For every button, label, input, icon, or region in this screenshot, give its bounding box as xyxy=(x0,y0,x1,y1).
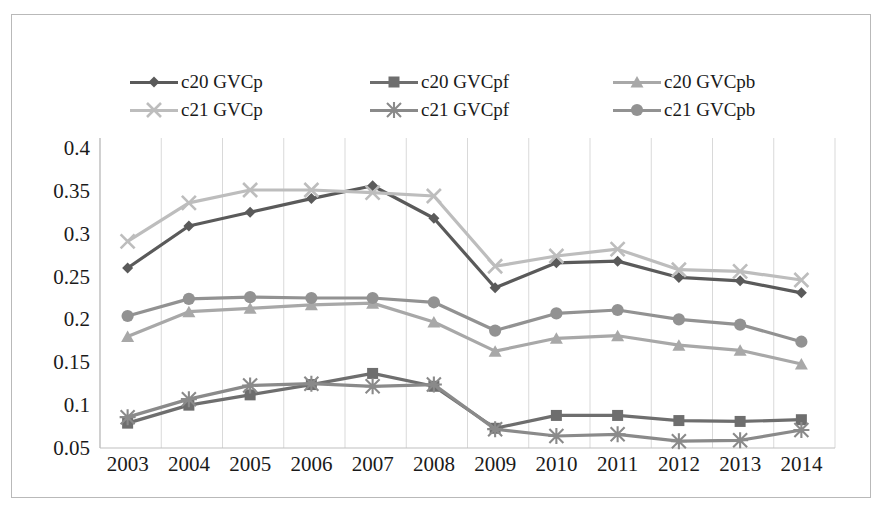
legend-item[interactable]: c20 GVCp xyxy=(130,68,370,96)
data-point-marker xyxy=(673,313,685,325)
diamond-marker-icon xyxy=(141,71,167,93)
data-point-marker xyxy=(631,104,643,116)
legend-item[interactable]: c21 GVCpb xyxy=(613,96,820,124)
data-point-marker xyxy=(610,426,626,442)
square-marker-icon xyxy=(381,71,407,93)
chart-series xyxy=(121,183,809,287)
chart-series xyxy=(121,297,808,369)
legend-swatch xyxy=(613,71,661,93)
legend-item[interactable]: c21 GVCpf xyxy=(370,96,613,124)
x-axis-tick-label: 2005 xyxy=(229,452,271,477)
data-point-marker xyxy=(244,291,256,303)
x-axis-tick-label: 2014 xyxy=(780,452,822,477)
data-point-marker xyxy=(367,292,379,304)
series-line xyxy=(128,384,802,441)
data-point-marker xyxy=(612,304,624,316)
data-point-marker xyxy=(183,293,195,305)
legend-item[interactable]: c20 GVCpb xyxy=(613,68,820,96)
x-axis-tick-label: 2008 xyxy=(413,452,455,477)
data-point-marker xyxy=(120,409,136,425)
series-line xyxy=(128,186,802,293)
series-line xyxy=(128,190,802,280)
legend-swatch xyxy=(130,99,178,121)
chart-legend: c20 GVCpc20 GVCpfc20 GVCpbc21 GVCpc21 GV… xyxy=(130,68,820,124)
legend-item-label: c21 GVCpb xyxy=(661,99,755,121)
x-axis-tick-label: 2013 xyxy=(719,452,761,477)
data-point-marker xyxy=(550,307,562,319)
legend-item[interactable]: c21 GVCp xyxy=(130,96,370,124)
triangle-marker-icon xyxy=(624,71,650,93)
data-point-marker xyxy=(551,410,562,421)
data-point-marker xyxy=(612,410,623,421)
data-point-marker xyxy=(121,234,135,248)
data-point-marker xyxy=(245,207,256,218)
data-point-marker xyxy=(735,416,746,427)
data-point-marker xyxy=(365,378,381,394)
data-point-marker xyxy=(487,421,503,437)
legend-row: c20 GVCpc20 GVCpfc20 GVCpb xyxy=(130,68,820,96)
data-point-marker xyxy=(673,415,684,426)
data-point-marker xyxy=(303,376,319,392)
x-axis: 2003200420052006200720082009201020112012… xyxy=(0,452,884,484)
legend-item-label: c21 GVCp xyxy=(178,99,263,121)
legend-item-label: c20 GVCp xyxy=(178,71,263,93)
data-point-marker xyxy=(796,287,807,298)
data-point-marker xyxy=(732,432,748,448)
legend-row: c21 GVCpc21 GVCpfc21 GVCpb xyxy=(130,96,820,124)
data-point-marker xyxy=(612,256,623,267)
data-point-marker xyxy=(795,336,807,348)
legend-swatch xyxy=(370,71,418,93)
x-axis-tick-label: 2003 xyxy=(107,452,149,477)
chart-series xyxy=(122,291,808,348)
data-point-marker xyxy=(389,77,400,88)
data-point-marker xyxy=(242,377,258,393)
x-axis-tick-label: 2009 xyxy=(474,452,516,477)
cross-marker-icon xyxy=(141,99,167,121)
x-axis-tick-label: 2007 xyxy=(352,452,394,477)
asterisk-marker-icon xyxy=(381,99,407,121)
data-point-marker xyxy=(548,428,564,444)
data-point-marker xyxy=(181,391,197,407)
data-point-marker xyxy=(149,77,160,88)
series-line xyxy=(128,373,802,428)
legend-item-label: c21 GVCpf xyxy=(418,99,509,121)
legend-swatch xyxy=(370,99,418,121)
data-point-marker xyxy=(122,310,134,322)
data-point-marker xyxy=(386,102,402,118)
legend-swatch xyxy=(130,71,178,93)
chart-series xyxy=(122,180,807,298)
data-point-marker xyxy=(631,76,644,88)
data-point-marker xyxy=(147,103,161,117)
data-point-marker xyxy=(489,324,501,336)
data-point-marker xyxy=(367,368,378,379)
chart-series xyxy=(120,376,810,449)
legend-item-label: c20 GVCpf xyxy=(418,71,509,93)
x-axis-tick-label: 2004 xyxy=(168,452,210,477)
x-axis-tick-label: 2011 xyxy=(597,452,638,477)
series-line xyxy=(128,303,802,364)
x-axis-tick-label: 2006 xyxy=(290,452,332,477)
legend-swatch xyxy=(613,99,661,121)
data-point-marker xyxy=(305,292,317,304)
legend-item[interactable]: c20 GVCpf xyxy=(370,68,613,96)
data-point-marker xyxy=(734,318,746,330)
x-axis-tick-label: 2012 xyxy=(658,452,700,477)
data-point-marker xyxy=(426,377,442,393)
x-axis-tick-label: 2010 xyxy=(535,452,577,477)
chart-series xyxy=(122,368,807,434)
data-point-marker xyxy=(671,433,687,449)
circle-marker-icon xyxy=(624,99,650,121)
legend-item-label: c20 GVCpb xyxy=(661,71,755,93)
data-point-marker xyxy=(793,422,809,438)
data-point-marker xyxy=(428,296,440,308)
